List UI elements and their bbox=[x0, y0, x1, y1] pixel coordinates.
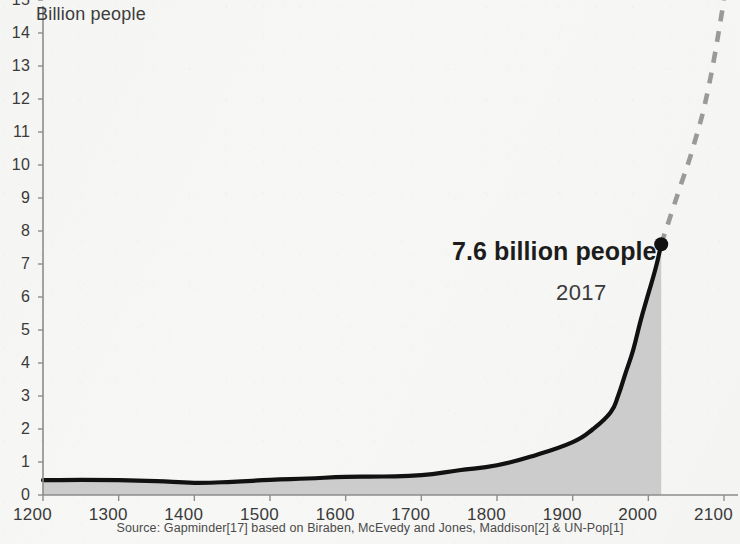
y-tick-label: 14 bbox=[4, 25, 30, 41]
annotation-year-label: 2017 bbox=[556, 280, 607, 306]
y-tick-label: 6 bbox=[4, 289, 30, 305]
y-tick-label: 7 bbox=[4, 256, 30, 272]
y-tick-label: 5 bbox=[4, 322, 30, 338]
y-tick-label: 15 bbox=[4, 0, 30, 8]
y-tick-label: 13 bbox=[4, 58, 30, 74]
y-tick-label: 3 bbox=[4, 388, 30, 404]
y-tick-label: 1 bbox=[4, 454, 30, 470]
chart-plot-area bbox=[0, 0, 740, 544]
y-tick-label: 9 bbox=[4, 190, 30, 206]
x-axis-tick-marks bbox=[43, 495, 724, 501]
population-chart: Billion people 0123456789101112131415 12… bbox=[0, 0, 740, 544]
y-tick-label: 2 bbox=[4, 421, 30, 437]
source-caption: Source: Gapminder[17] based on Biraben, … bbox=[0, 521, 740, 535]
y-tick-label: 10 bbox=[4, 157, 30, 173]
y-tick-label: 8 bbox=[4, 223, 30, 239]
y-tick-label: 4 bbox=[4, 355, 30, 371]
y-axis-title: Billion people bbox=[36, 4, 146, 25]
y-tick-label: 0 bbox=[4, 487, 30, 503]
y-tick-label: 11 bbox=[4, 124, 30, 140]
annotation-value-label: 7.6 billion people bbox=[452, 237, 657, 266]
projection-line-dashed bbox=[661, 0, 724, 244]
y-tick-label: 12 bbox=[4, 91, 30, 107]
